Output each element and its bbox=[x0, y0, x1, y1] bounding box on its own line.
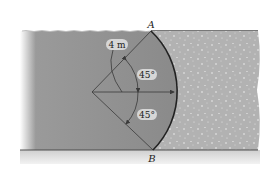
radius-label: 4 m bbox=[108, 40, 126, 50]
water-region bbox=[20, 31, 177, 150]
point-A-label: A bbox=[146, 19, 154, 30]
ground-region bbox=[20, 150, 260, 164]
point-B-label: B bbox=[147, 153, 155, 164]
angle-upper-label: 45° bbox=[139, 70, 155, 80]
tainter-gate-diagram: 4 m 45° 45° A B bbox=[0, 0, 280, 176]
angle-lower-label: 45° bbox=[139, 110, 155, 120]
